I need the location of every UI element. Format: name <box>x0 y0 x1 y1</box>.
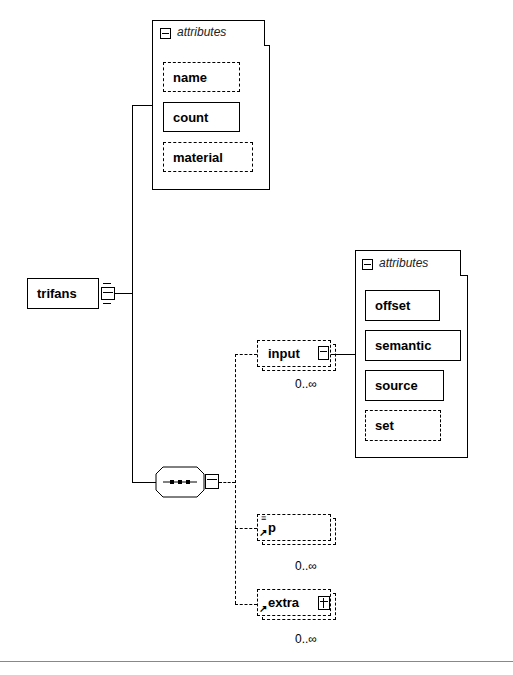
attribute-source[interactable]: source <box>365 370 444 401</box>
connector <box>235 528 257 529</box>
connector <box>331 354 355 355</box>
mixed-content-icon: ≡ <box>261 514 266 523</box>
cardinality-p: 0..∞ <box>295 559 317 573</box>
element-trifans[interactable]: trifans <box>27 278 99 309</box>
connector <box>219 482 235 483</box>
attribute-offset[interactable]: offset <box>365 290 440 321</box>
connector <box>132 105 133 483</box>
attribute-material[interactable]: material <box>163 142 253 172</box>
reference-arrow-icon: ↗ <box>259 604 267 614</box>
connector <box>114 293 132 294</box>
collapse-trifans-icon[interactable] <box>101 287 115 300</box>
element-p[interactable]: p <box>257 514 331 541</box>
root-attributes-title: attributes <box>177 25 226 39</box>
attribute-name[interactable]: name <box>163 62 240 92</box>
connector <box>132 105 153 106</box>
connector <box>235 604 257 605</box>
attribute-semantic[interactable]: semantic <box>365 330 461 361</box>
connector <box>235 354 257 355</box>
connector <box>235 354 236 604</box>
collapse-input-icon[interactable] <box>318 346 329 360</box>
collapse-root-attributes-icon[interactable] <box>160 28 171 39</box>
cardinality-input: 0..∞ <box>295 377 317 391</box>
cardinality-extra: 0..∞ <box>295 632 317 646</box>
attribute-count[interactable]: count <box>163 102 240 132</box>
attribute-set[interactable]: set <box>365 410 441 441</box>
reference-arrow-icon: ↗ <box>259 528 267 538</box>
input-attributes-title: attributes <box>379 256 428 270</box>
sequence-compositor-icon[interactable] <box>155 466 205 498</box>
divider <box>0 661 513 662</box>
collapse-sequence-icon[interactable] <box>205 474 219 489</box>
expand-extra-icon[interactable] <box>318 596 330 610</box>
connector <box>132 482 156 483</box>
collapse-input-attributes-icon[interactable] <box>362 259 373 270</box>
